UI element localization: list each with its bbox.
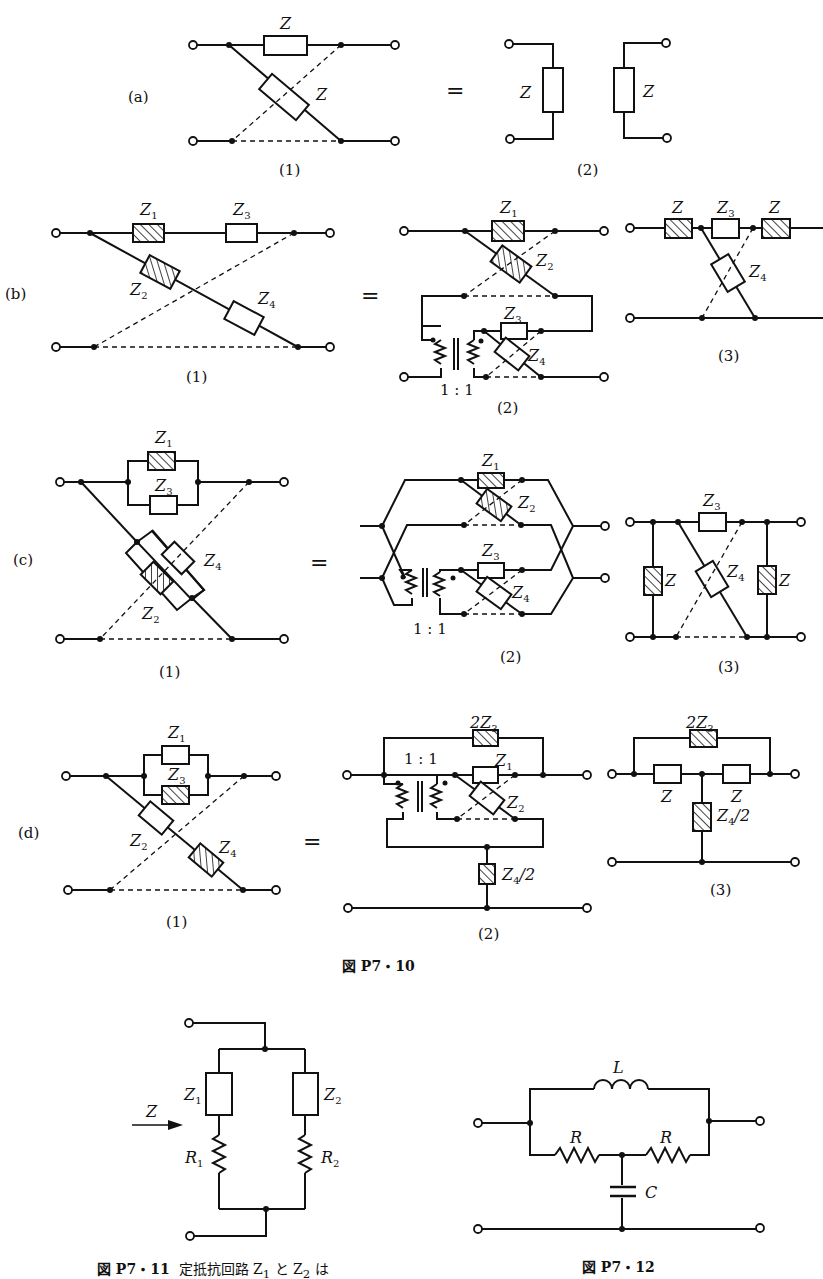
row-label-d: (d) (18, 826, 39, 841)
row-label-a: (a) (128, 90, 149, 105)
circuit-b3-equivalent (626, 219, 823, 322)
label-resistor-r-right: R (660, 1130, 672, 1146)
label-p711-z2: Z2 (324, 1087, 342, 1106)
label-b1-z4: Z4 (258, 291, 276, 310)
sub-a1: (1) (279, 163, 300, 178)
arrow-icon (168, 1120, 183, 1130)
label-c3-z-left: Z (665, 573, 676, 589)
equals-b: = (361, 285, 379, 307)
label-b3-z-left: Z (672, 200, 683, 216)
label-c2-z4: Z4 (512, 585, 530, 604)
label-d3-z4-half: Z4/2 (717, 808, 750, 827)
label-b1-z3: Z3 (233, 202, 251, 221)
label-c2-z1: Z1 (482, 453, 500, 472)
label-d3-2z3: 2Z3 (686, 715, 714, 734)
equals-c: = (310, 552, 328, 574)
label-b2-z2: Z2 (536, 253, 554, 272)
label-c3-z3: Z3 (703, 493, 721, 512)
label-b1-z2: Z2 (130, 282, 148, 301)
label-resistor-r-left: R (570, 1130, 582, 1146)
circuit-b2-transformer (400, 221, 608, 381)
sub-b2: (2) (497, 401, 518, 416)
label-c1-z1: Z1 (155, 430, 173, 449)
label-z-cross: Z (316, 87, 327, 103)
sub-c3: (3) (718, 660, 739, 675)
sub-b3: (3) (718, 349, 739, 364)
label-c1-z3: Z3 (155, 478, 173, 497)
sub-b1: (1) (186, 370, 207, 385)
transformer-ratio-b: 1 : 1 (440, 383, 474, 398)
label-b3-z-right: Z (769, 200, 780, 216)
transformer-ratio-c: 1 : 1 (413, 622, 447, 637)
label-c2-z2: Z2 (518, 495, 536, 514)
label-p711-r1: R1 (185, 1150, 203, 1169)
label-z-right: Z (643, 84, 654, 100)
label-b1-z1: Z1 (140, 202, 158, 221)
label-p711-z1: Z1 (184, 1087, 202, 1106)
figure-caption-p7-12: 図 P7・12 (582, 1256, 655, 1276)
label-c2-z3: Z3 (482, 543, 500, 562)
label-z-left: Z (520, 85, 531, 101)
label-c3-z4: Z4 (727, 564, 745, 583)
equals-a: = (446, 80, 464, 102)
sub-d1: (1) (166, 915, 187, 930)
figure-caption-p7-10: 図 P7・10 (342, 955, 415, 975)
label-c1-z2: Z2 (142, 606, 160, 625)
label-b2-z3: Z3 (504, 306, 522, 325)
label-c3-z-right: Z (779, 573, 790, 589)
label-b2-z1: Z1 (500, 200, 518, 219)
circuit-p7-12 (474, 1080, 764, 1233)
circuit-a1-lattice (189, 36, 399, 145)
row-label-c: (c) (13, 553, 33, 568)
sub-d2: (2) (478, 927, 499, 942)
label-d3-z-right: Z (731, 789, 742, 805)
label-inductor-l: L (613, 1060, 624, 1076)
circuit-diagram-canvas (0, 0, 823, 1279)
figure-caption-p7-11: 図 P7・11 定抵抗回路 Z1 と Z2 は (97, 1258, 329, 1279)
label-input-z: Z (146, 1104, 157, 1120)
equals-d: = (303, 831, 321, 853)
row-label-b: (b) (5, 287, 26, 302)
label-p711-r2: R2 (321, 1150, 339, 1169)
sub-c2: (2) (500, 650, 521, 665)
label-b2-z4: Z4 (528, 348, 546, 367)
circuit-d2-transformer (343, 730, 591, 912)
label-d1-z1: Z1 (168, 725, 186, 744)
label-d1-z2: Z2 (130, 833, 148, 852)
label-d2-z4-half: Z4/2 (502, 867, 535, 886)
label-d2-2z3: 2Z3 (470, 715, 498, 734)
label-d2-z2: Z2 (507, 795, 525, 814)
transformer-ratio-d: 1 : 1 (404, 752, 438, 767)
label-capacitor-c: C (645, 1185, 657, 1201)
label-z-series: Z (280, 16, 291, 32)
sub-c1: (1) (159, 665, 180, 680)
label-b3-z4: Z4 (749, 264, 767, 283)
label-d1-z4: Z4 (219, 840, 237, 859)
circuit-d3-equivalent (608, 730, 799, 866)
label-d2-z1: Z1 (495, 753, 513, 772)
sub-d3: (3) (710, 883, 731, 898)
label-c1-z4: Z4 (204, 553, 222, 572)
circuit-b1-lattice (52, 224, 334, 351)
label-d3-z-left: Z (661, 789, 672, 805)
circuit-p7-11 (132, 1019, 318, 1240)
sub-a2: (2) (577, 163, 598, 178)
label-d1-z3: Z3 (168, 767, 186, 786)
label-b3-z3: Z3 (717, 200, 735, 219)
